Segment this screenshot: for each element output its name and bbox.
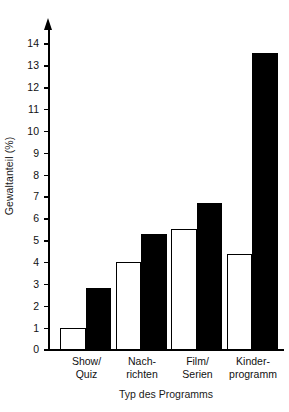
bar-series-group	[48, 18, 284, 349]
y-axis-tick-label: 3	[33, 279, 39, 290]
y-axis-tick-label: 9	[33, 147, 39, 158]
x-axis-category-label: Film/ Serien	[167, 355, 229, 380]
y-axis-tick-label: 12	[27, 82, 39, 93]
y-axis-title-text: Gewaltanteil (%)	[3, 136, 15, 215]
y-axis-tick-label: 7	[33, 191, 39, 202]
bar	[171, 229, 197, 349]
x-axis-title: Typ des Programms	[48, 388, 284, 400]
y-axis-tick-mark	[44, 349, 49, 350]
y-axis-title: Gewaltanteil (%)	[0, 0, 18, 351]
bar	[116, 262, 142, 349]
y-axis-tick-label: 2	[33, 300, 39, 311]
y-axis-tick-labels: 01234567891011121314	[18, 0, 42, 412]
y-axis-tick-label: 11	[28, 104, 39, 115]
bar	[227, 254, 253, 349]
bar-chart: Gewaltanteil (%) 01234567891011121314 Sh…	[0, 0, 289, 412]
bar	[252, 53, 278, 349]
x-axis-category-labels: Show/ QuizNach- richtenFilm/ SerienKinde…	[48, 355, 284, 385]
bar	[197, 203, 223, 349]
y-axis-tick-label: 6	[33, 213, 39, 224]
y-axis-tick-label: 8	[33, 169, 39, 180]
y-axis-tick-label: 1	[33, 322, 39, 333]
x-axis-category-label: Show/ Quiz	[56, 355, 118, 380]
bar	[86, 288, 112, 349]
y-axis-tick-label: 10	[27, 126, 39, 137]
y-axis-tick-label: 0	[33, 344, 39, 355]
y-axis-tick-label: 5	[33, 235, 39, 246]
y-axis-tick-label: 14	[27, 38, 39, 49]
bar	[141, 234, 167, 350]
x-axis-category-label: Kinder- programm	[222, 355, 284, 380]
bar	[60, 328, 86, 350]
x-axis-category-label: Nach- richten	[111, 355, 173, 380]
y-axis-tick-label: 4	[33, 257, 39, 268]
y-axis-tick-label: 13	[27, 60, 39, 71]
plot-area	[48, 18, 284, 351]
